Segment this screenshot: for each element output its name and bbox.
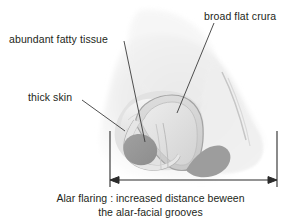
caption-line-2: the alar-facial grooves: [0, 206, 301, 220]
label-abundant-fatty-tissue: abundant fatty tissue: [9, 33, 108, 45]
anatomical-figure: broad flat crura abundant fatty tissue t…: [0, 0, 301, 223]
label-thick-skin: thick skin: [28, 91, 72, 103]
label-broad-flat-crura: broad flat crura: [204, 10, 276, 22]
dimension-arrowhead-right: [268, 177, 277, 184]
dimension-arrowhead-left: [110, 177, 119, 184]
figure-caption: Alar flaring : increased distance beween…: [0, 192, 301, 219]
caption-line-1: Alar flaring : increased distance beween: [0, 192, 301, 206]
